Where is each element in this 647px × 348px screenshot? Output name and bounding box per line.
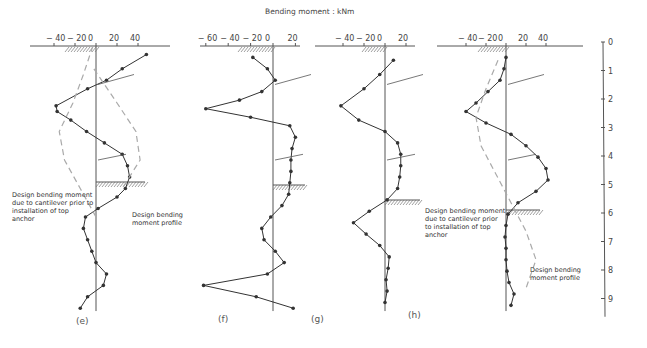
tick-label: 0 [88,34,93,43]
caption-h: (h) [408,310,421,320]
bending-moment-figure: Bending moment : kNm − 40− 2002040 − 60−… [0,0,647,348]
depth-label: 7 [608,238,613,247]
svg-text:installation of top: installation of top [12,207,69,215]
svg-text:Design bending: Design bending [530,266,581,274]
tick-label: 40 [538,34,548,43]
svg-text:moment profile: moment profile [530,274,580,282]
tick-label: − 20 [356,34,375,43]
tick-label: 0 [377,34,382,43]
annotation-cantilever-h: Design bending moment due to cantilever … [425,207,506,239]
panel-g: − 40− 20020 [315,34,423,311]
caption-g: (g) [311,314,324,324]
tick-label: 40 [130,34,140,43]
design-moment-curve [341,60,401,302]
anchor-arrow [98,75,134,85]
tick-label: 0 [498,34,503,43]
caption-f: (f) [218,314,228,324]
tick-label: 20 [398,34,408,43]
tick-label: 20 [109,34,119,43]
anchor-arrow [275,154,303,160]
tick-label: − 60 [198,34,217,43]
tick-label: − 20 [243,34,262,43]
tick-label: 20 [518,34,528,43]
svg-text:Design bending moment: Design bending moment [425,207,506,215]
anchor-arrow [275,75,311,85]
depth-label: 2 [608,95,613,104]
depth-label: 9 [608,295,613,304]
depth-label: 1 [608,67,613,76]
annotation-profile-h: Design bending moment profile [530,266,581,282]
depth-label: 6 [608,209,613,218]
caption-e: (e) [76,316,89,326]
annotation-cantilever-e: Design bending moment due to cantilever … [12,191,93,223]
annotation-profile-e: Design bending moment profile [132,211,183,227]
anchor-arrow [508,75,544,85]
svg-text:moment profile: moment profile [132,219,182,227]
depth-label: 0 [608,38,613,47]
svg-text:to installation of top: to installation of top [425,223,491,231]
panel-f: − 60− 40− 20020 [198,34,311,311]
depth-scale-axis: 0123456789 [601,38,613,317]
design-moment-curve [204,57,296,308]
panel-e: − 40− 2002040 [30,34,170,311]
cantilever-moment-curve [94,69,140,189]
tick-label: − 40 [335,34,354,43]
svg-text:anchor: anchor [12,215,35,223]
anchor-arrow [387,75,423,85]
tick-label: − 40 [220,34,239,43]
tick-label: − 40 [458,34,477,43]
tick-label: 20 [287,34,297,43]
depth-label: 4 [608,152,613,161]
tick-label: − 20 [67,34,86,43]
design-moment-curve [56,55,146,309]
tick-label: 0 [265,34,270,43]
depth-label: 3 [608,124,613,133]
svg-text:anchor: anchor [425,231,448,239]
figure-title: Bending moment : kNm [265,7,354,16]
anchor-arrow [508,154,536,160]
tick-label: − 20 [478,34,497,43]
tick-label: − 40 [46,34,65,43]
anchor-arrow [98,154,126,160]
svg-text:Design bending moment: Design bending moment [12,191,93,199]
svg-text:due to cantilever prior: due to cantilever prior [425,215,498,223]
svg-text:Design bending: Design bending [132,211,183,219]
svg-text:due to cantilever prior to: due to cantilever prior to [12,199,93,207]
depth-label: 5 [608,181,613,190]
depth-label: 8 [608,266,613,275]
